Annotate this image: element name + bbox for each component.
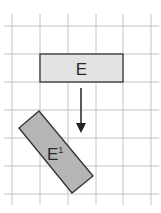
shape-e-original: E [40,54,123,82]
arrow-head-icon [76,123,86,133]
transformation-diagram: E E1 [0,0,161,213]
label-e: E [76,60,87,79]
label-e1-main: E [47,145,58,164]
label-e1-superscript: 1 [58,145,63,155]
